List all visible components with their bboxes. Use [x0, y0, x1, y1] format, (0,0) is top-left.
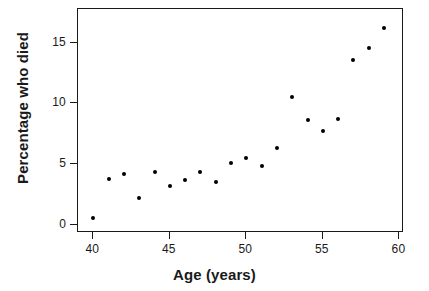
data-point: [382, 26, 386, 30]
data-point: [214, 180, 218, 184]
x-tick-label: 60: [392, 242, 406, 256]
x-tick-label: 50: [238, 242, 252, 256]
data-point: [306, 118, 310, 122]
data-point: [183, 178, 187, 182]
y-tick-label: 15: [52, 35, 66, 49]
x-tick-mark: [92, 232, 93, 239]
data-point: [367, 46, 371, 50]
x-tick-label: 45: [162, 242, 176, 256]
x-axis: 4045505560: [0, 232, 429, 262]
y-tick-mark: [70, 42, 77, 43]
x-axis-title: Age (years): [0, 266, 429, 283]
data-point: [91, 216, 95, 220]
y-tick-label: 10: [52, 95, 66, 109]
data-point: [336, 117, 340, 121]
x-tick-mark: [322, 232, 323, 239]
x-tick-label: 40: [85, 242, 99, 256]
plot-area: [78, 9, 402, 231]
x-tick-label: 55: [315, 242, 329, 256]
data-point: [321, 129, 325, 133]
x-tick-mark: [398, 232, 399, 239]
data-point: [229, 161, 233, 165]
x-tick-mark: [245, 232, 246, 239]
y-tick-label: 0: [59, 217, 66, 231]
data-point: [244, 156, 248, 160]
data-point: [168, 184, 172, 188]
y-tick-mark: [70, 102, 77, 103]
data-point: [198, 170, 202, 174]
y-tick-label: 5: [59, 156, 66, 170]
y-tick-mark: [70, 163, 77, 164]
data-point: [153, 170, 157, 174]
data-point: [290, 95, 294, 99]
y-axis-title: Percentage who died: [14, 0, 32, 228]
data-point: [122, 172, 126, 176]
data-point: [260, 164, 264, 168]
scatter-plot-figure: 051015 4045505560 Age (years) Percentage…: [0, 0, 429, 291]
x-tick-mark: [169, 232, 170, 239]
data-point: [275, 146, 279, 150]
y-tick-mark: [70, 224, 77, 225]
data-point: [137, 196, 141, 200]
data-point: [351, 58, 355, 62]
plot-frame: [77, 8, 403, 232]
data-point: [107, 177, 111, 181]
